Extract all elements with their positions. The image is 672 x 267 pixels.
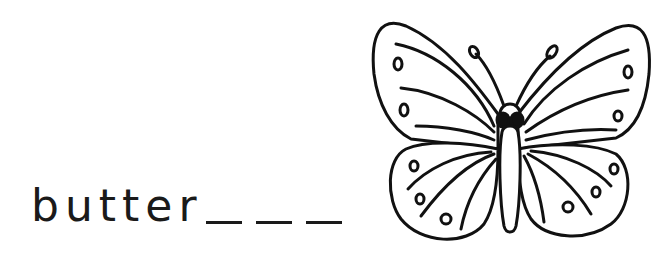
letter-blanks xyxy=(206,221,342,224)
letter-blank-1[interactable] xyxy=(206,221,242,224)
letter-blank-2[interactable] xyxy=(256,221,292,224)
word-exercise: butter xyxy=(31,168,342,228)
letter-blank-3[interactable] xyxy=(306,221,342,224)
word-prefix: butter xyxy=(31,184,202,228)
butterfly-icon xyxy=(366,14,658,244)
